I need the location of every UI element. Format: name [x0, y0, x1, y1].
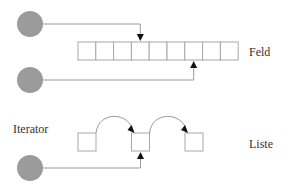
list-links	[96, 116, 188, 133]
array-cell	[167, 42, 185, 60]
list-link-arrowhead	[181, 125, 188, 133]
array-label: Feld	[249, 45, 270, 59]
array-pointer-bottom-line	[43, 67, 194, 80]
array-pointer-top-line	[43, 24, 140, 35]
list-label: Liste	[249, 137, 273, 151]
list-pointer-line	[43, 158, 141, 168]
array-cell	[78, 42, 96, 60]
array-pointer-bottom-arrowhead	[190, 61, 197, 68]
iterator-label: Iterator	[13, 122, 48, 136]
list-link-arc	[96, 116, 134, 133]
array-pointer-top-arrowhead	[137, 34, 144, 41]
list-node	[185, 133, 203, 151]
array-iterator-circle-top	[17, 11, 43, 37]
array-cell	[220, 42, 238, 60]
array-cells	[78, 42, 238, 60]
array-cell	[131, 42, 149, 60]
array-cell	[114, 42, 132, 60]
array-cell	[149, 42, 167, 60]
array-cell	[203, 42, 221, 60]
list-link-arc	[150, 116, 188, 133]
array-cell	[96, 42, 114, 60]
array-iterator-circle-bottom	[17, 67, 43, 93]
list-nodes	[78, 133, 203, 151]
list-pointer-arrowhead	[137, 152, 144, 159]
list-link-arrowhead	[128, 125, 135, 133]
list-node	[132, 133, 150, 151]
iterator-diagram: Feld Liste Iterator	[0, 0, 291, 188]
list-iterator-circle	[17, 155, 43, 181]
list-node	[78, 133, 96, 151]
array-cell	[185, 42, 203, 60]
